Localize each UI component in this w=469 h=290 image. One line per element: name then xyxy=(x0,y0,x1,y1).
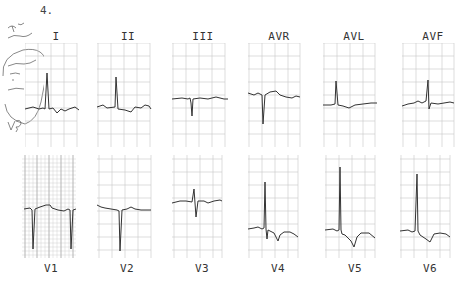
lead-label-V6: V6 xyxy=(400,262,460,275)
ecg-strip-V2 xyxy=(97,155,157,260)
lead-label-V3: V3 xyxy=(172,262,232,275)
lead-AVR: AVR xyxy=(248,30,310,148)
lead-label-V2: V2 xyxy=(97,262,157,275)
ecg-strip-AVF xyxy=(402,43,464,147)
lead-V4: V4 xyxy=(248,155,308,285)
lead-label-AVF: AVF xyxy=(402,30,464,43)
lead-label-AVL: AVL xyxy=(323,30,385,43)
ecg-strip-AVR xyxy=(248,43,310,147)
lead-label-V5: V5 xyxy=(325,262,385,275)
ecg-strip-I xyxy=(25,43,87,147)
lead-V5: V5 xyxy=(325,155,385,285)
ecg-strip-III xyxy=(172,43,234,147)
lead-V1: V1 xyxy=(22,155,80,285)
ecg-strip-V1 xyxy=(22,155,80,260)
ecg-strip-V6 xyxy=(400,155,460,260)
lead-label-V4: V4 xyxy=(248,262,308,275)
ecg-strip-V3 xyxy=(172,155,232,260)
ecg-strip-V5 xyxy=(325,155,385,260)
ecg-strip-AVL xyxy=(323,43,385,147)
lead-I: I xyxy=(25,30,87,148)
ecg-strip-II xyxy=(97,43,159,147)
lead-II: II xyxy=(97,30,159,148)
figure-number: 4. xyxy=(40,4,53,17)
lead-label-V1: V1 xyxy=(22,262,80,275)
ecg-strip-V4 xyxy=(248,155,308,260)
lead-V6: V6 xyxy=(400,155,460,285)
lead-III: III xyxy=(172,30,234,148)
lead-AVL: AVL xyxy=(323,30,385,148)
lead-label-II: II xyxy=(97,30,159,43)
lead-V2: V2 xyxy=(97,155,157,285)
lead-AVF: AVF xyxy=(402,30,464,148)
lead-label-AVR: AVR xyxy=(248,30,310,43)
lead-label-I: I xyxy=(25,30,87,43)
lead-label-III: III xyxy=(172,30,234,43)
lead-V3: V3 xyxy=(172,155,232,285)
